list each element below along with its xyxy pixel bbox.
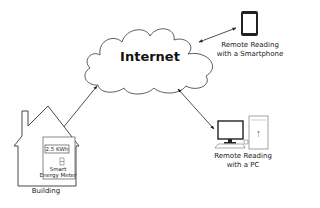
- arrow-cloud-smartphone: [199, 28, 236, 42]
- meter-label-line2: Energy Meter: [37, 173, 79, 179]
- arrow-cloud-pc: [178, 89, 214, 129]
- internet-label: Internet: [118, 50, 182, 63]
- pc-label-line2: with a PC: [207, 162, 279, 169]
- smartphone-label-line1: Remote Reading: [214, 42, 286, 49]
- pc-icon: [215, 116, 268, 149]
- building-label: Building: [26, 188, 66, 195]
- smartphone-label-line2: with a Smartphone: [210, 51, 290, 58]
- pc-label-line1: Remote Reading: [207, 153, 279, 160]
- smartphone-icon: [241, 11, 258, 36]
- meter-display: 2.5 KWh: [45, 147, 69, 153]
